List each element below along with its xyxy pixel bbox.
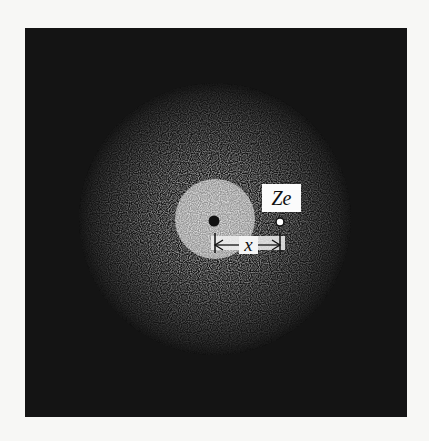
displacement-label: x bbox=[239, 236, 258, 254]
nucleus-dot-icon bbox=[209, 216, 220, 227]
charge-open-circle-icon bbox=[276, 218, 284, 226]
charge-label: Ze bbox=[262, 184, 301, 212]
diagram-figure: Ze x bbox=[25, 28, 407, 417]
electron-cloud-diagram bbox=[25, 28, 407, 417]
